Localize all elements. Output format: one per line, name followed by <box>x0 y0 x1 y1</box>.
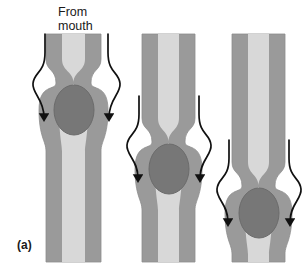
tube-stage-1 <box>39 34 108 262</box>
tube-panels-group <box>39 34 292 262</box>
lumen-upper-3 <box>248 34 269 185</box>
bolus-2 <box>149 144 189 194</box>
peristalsis-diagram-canvas <box>0 0 304 269</box>
tube-stage-2 <box>135 34 202 262</box>
tube-stage-3 <box>225 34 292 262</box>
flow-arrow-right-1 <box>108 34 120 117</box>
panel-letter-label: (a) <box>17 238 32 252</box>
bolus-3 <box>239 188 279 238</box>
peristalsis-figure: Frommouth (a) <box>0 0 304 269</box>
from-mouth-annotation: Frommouth <box>58 6 93 33</box>
bolus-1 <box>54 85 94 135</box>
lumen-upper-2 <box>158 34 179 141</box>
